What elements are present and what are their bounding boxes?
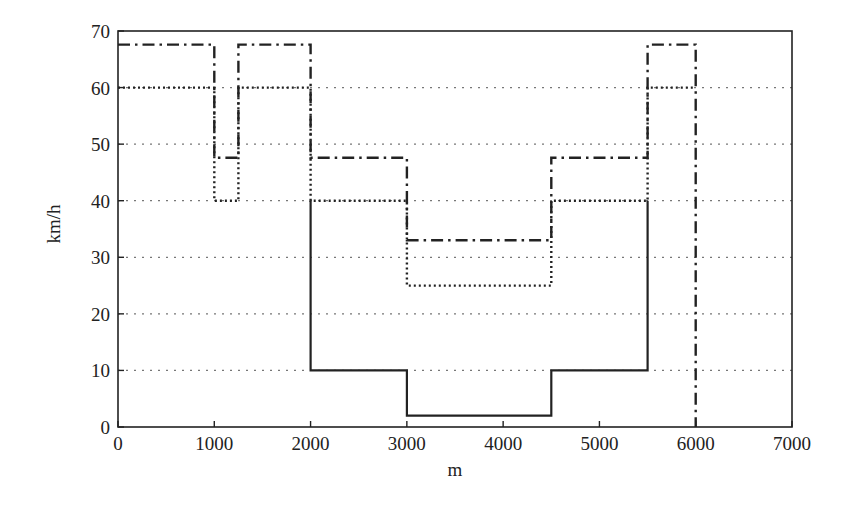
y-tick-label: 30 (91, 247, 110, 268)
y-tick-label: 70 (91, 21, 110, 42)
plot-frame (118, 31, 792, 427)
x-tick-label: 2000 (292, 433, 330, 454)
x-tick-label: 5000 (580, 433, 618, 454)
x-tick-label: 1000 (195, 433, 233, 454)
series-dotted-line (118, 88, 696, 286)
x-axis-ticks: 01000200030004000500060007000 (113, 421, 811, 454)
y-axis-label: km/h (43, 204, 64, 244)
y-tick-label: 50 (91, 134, 110, 155)
data-series (118, 45, 696, 427)
speed-distance-chart: 01000200030004000500060007000 0102030405… (0, 0, 855, 505)
x-tick-label: 4000 (484, 433, 522, 454)
x-tick-label: 7000 (773, 433, 811, 454)
x-tick-label: 0 (113, 433, 123, 454)
y-tick-label: 0 (101, 417, 111, 438)
y-tick-label: 10 (91, 360, 110, 381)
y-tick-label: 40 (91, 191, 110, 212)
x-tick-label: 3000 (388, 433, 426, 454)
x-axis-label: m (448, 459, 463, 480)
y-tick-label: 60 (91, 78, 110, 99)
y-axis-ticks: 010203040506070 (91, 21, 124, 438)
series-solid-line (311, 201, 648, 416)
y-tick-label: 20 (91, 304, 110, 325)
x-tick-label: 6000 (677, 433, 715, 454)
gridlines (118, 88, 792, 371)
